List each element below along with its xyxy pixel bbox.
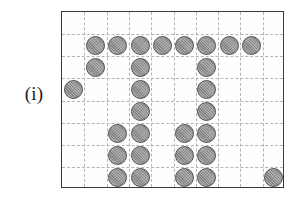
stone[interactable] [197, 124, 216, 143]
stone[interactable] [131, 102, 150, 121]
stone[interactable] [131, 80, 150, 99]
stone[interactable] [175, 124, 194, 143]
stone[interactable] [175, 36, 194, 55]
stone[interactable] [131, 124, 150, 143]
stones-layer [62, 12, 283, 187]
stone[interactable] [108, 124, 127, 143]
stone[interactable] [175, 168, 194, 187]
game-board[interactable] [61, 11, 284, 188]
figure-label: (i) [12, 84, 56, 104]
figure-container: (i) [0, 0, 296, 203]
stone[interactable] [197, 146, 216, 165]
stone[interactable] [86, 36, 105, 55]
stone[interactable] [175, 146, 194, 165]
stone[interactable] [197, 36, 216, 55]
stone[interactable] [131, 58, 150, 77]
stone[interactable] [197, 58, 216, 77]
stone[interactable] [197, 102, 216, 121]
stone[interactable] [108, 36, 127, 55]
stone[interactable] [153, 36, 172, 55]
stone[interactable] [131, 168, 150, 187]
stone[interactable] [197, 168, 216, 187]
stone[interactable] [86, 58, 105, 77]
stone[interactable] [64, 80, 83, 99]
stone[interactable] [197, 80, 216, 99]
stone[interactable] [108, 168, 127, 187]
stone[interactable] [220, 36, 239, 55]
stone[interactable] [131, 146, 150, 165]
stone[interactable] [242, 36, 261, 55]
stone[interactable] [131, 36, 150, 55]
stone[interactable] [108, 146, 127, 165]
stone[interactable] [264, 168, 283, 187]
